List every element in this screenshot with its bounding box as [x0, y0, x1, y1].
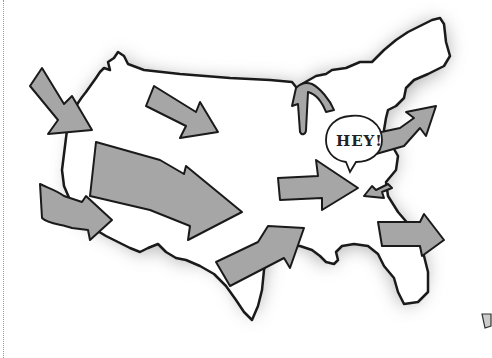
- us-map-illustration: HEY!: [0, 0, 492, 358]
- corner-mark: [482, 314, 491, 328]
- speech-bubble-text: HEY!: [336, 132, 383, 150]
